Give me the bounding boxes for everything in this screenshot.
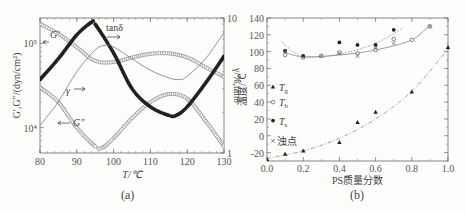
- cross-marker-icon: [271, 139, 275, 143]
- filled-circle-marker-icon: [338, 40, 342, 44]
- y-axis-label-b: 温度/℃: [236, 73, 248, 106]
- arrow-right-icon: [107, 35, 120, 39]
- legend-label: Tb: [279, 97, 289, 110]
- arrow-left-icon: [58, 121, 70, 125]
- x-tick-label-a: 110: [143, 156, 158, 167]
- label-g-double-prime: G″: [73, 117, 85, 128]
- x-tick-label-b: 0.2: [297, 163, 310, 174]
- label-g-prime: G′: [50, 29, 60, 40]
- chart-a: 809010011012013010⁴10⁵110T/℃G′,G″/(dyn/c…: [11, 13, 243, 180]
- y-tick-label-b: 60: [254, 80, 264, 91]
- x-tick-label-b: 0.6: [369, 163, 382, 174]
- y-tick-label-right: 10: [227, 13, 237, 24]
- caption-a: (a): [121, 188, 134, 203]
- legend-label: Tg: [279, 82, 289, 95]
- y-tick-label-b: -20: [251, 148, 264, 159]
- x-axis-label-a: T/℃: [122, 169, 143, 180]
- triangle-marker-icon: [410, 90, 414, 94]
- y-tick-label-b: 120: [249, 30, 264, 41]
- annotations-a: G′tanδγG″: [43, 22, 123, 128]
- label-gamma: γ: [66, 85, 71, 96]
- x-tick-label-b: 1.0: [442, 163, 455, 174]
- open-circle-marker-icon: [271, 100, 275, 104]
- x-tick-label-a: 120: [180, 156, 195, 167]
- open-circle-marker-icon: [283, 53, 287, 57]
- filled-circle-marker-icon: [374, 43, 378, 47]
- x-tick-label-b: 0.8: [406, 163, 419, 174]
- y-tick-label-left: 10⁴: [24, 123, 38, 134]
- y-tick-label-b: 20: [254, 114, 264, 125]
- triangle-marker-icon: [337, 140, 341, 144]
- x-tick-label-a: 90: [72, 156, 82, 167]
- x-tick-label-b: 0.0: [261, 163, 274, 174]
- legend-item: Tg: [271, 82, 289, 95]
- label-tan-delta: tanδ: [106, 22, 123, 33]
- y-tick-label-b: 0: [259, 131, 264, 142]
- legend-item: Tb: [271, 97, 288, 110]
- x-tick-label-a: 100: [106, 156, 121, 167]
- series-Tb: [283, 25, 431, 60]
- chart-b: 0.00.20.40.60.81.0-20020406080100120140P…: [236, 13, 454, 186]
- x-tick-label-b: 0.4: [333, 163, 346, 174]
- y-tick-label-b: 80: [254, 63, 264, 74]
- y-tick-label-right: 1: [227, 148, 232, 159]
- filled-circle-marker-icon: [392, 28, 396, 32]
- triangle-marker-icon: [446, 45, 450, 49]
- triangle-marker-icon: [265, 157, 269, 161]
- y-tick-label-b: 140: [249, 13, 264, 24]
- y-tick-label-left: 10⁵: [24, 38, 38, 49]
- triangle-marker-icon: [271, 85, 275, 89]
- legend-item: 浊点: [271, 135, 297, 147]
- triangle-marker-icon: [283, 152, 287, 156]
- arrow-right-icon: [74, 87, 85, 91]
- filled-circle-marker-icon: [356, 43, 360, 47]
- open-circle-marker-icon: [392, 37, 396, 41]
- legend-label: 浊点: [277, 135, 297, 147]
- series-tan-delta: [38, 19, 225, 118]
- x-tick-label-a: 80: [35, 156, 45, 167]
- open-circle-marker-icon: [410, 38, 414, 42]
- legend-item: Ts: [271, 116, 287, 129]
- y-axis-label-left: G′,G″/(dyn/cm²): [11, 53, 23, 119]
- caption-b: (b): [350, 188, 364, 203]
- y-tick-label-b: 40: [254, 97, 264, 108]
- x-axis-label-b: PS质量分数: [332, 174, 383, 186]
- fit-curve: [281, 28, 402, 57]
- y-tick-label-b: 100: [249, 47, 264, 58]
- cross-marker-icon: [392, 41, 396, 45]
- legend-b: TgTbTs浊点: [271, 82, 297, 147]
- triangle-marker-icon: [373, 110, 377, 114]
- legend-label: Ts: [279, 116, 288, 129]
- triangle-marker-icon: [355, 120, 359, 124]
- filled-circle-marker-icon: [271, 119, 275, 123]
- figure-canvas: 809010011012013010⁴10⁵110T/℃G′,G″/(dyn/c…: [0, 0, 466, 213]
